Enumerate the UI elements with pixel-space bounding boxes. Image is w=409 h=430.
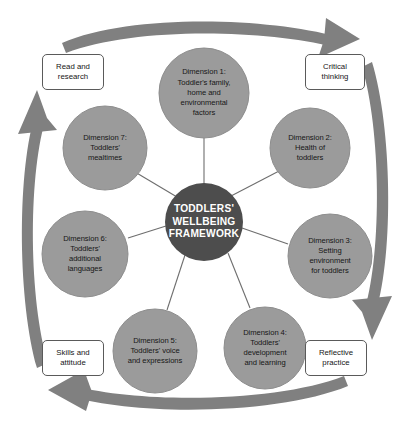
connector-dimension-7 (135, 172, 177, 197)
arrow-right-icon (352, 62, 392, 340)
center-hub-circle (165, 183, 243, 261)
circle-dimension-5 (113, 309, 197, 393)
skills-and-attitude-line-1: Skills and (56, 348, 89, 358)
connector-dimension-3 (242, 228, 288, 244)
circle-dimension-7 (63, 106, 147, 190)
reflective-practice-line-1: Reflective (319, 348, 353, 358)
read-and-research-line-2: research (56, 72, 90, 82)
circle-dimension-3 (288, 214, 372, 298)
circle-dimension-4 (224, 307, 306, 389)
connector-dimension-6 (128, 226, 166, 238)
read-and-research-line-1: Read and (56, 62, 90, 72)
arrow-bottom-icon (48, 370, 348, 411)
skills-and-attitude-line-2: attitude (56, 358, 89, 368)
connector-dimension-4 (228, 253, 250, 308)
connector-dimension-2 (231, 170, 281, 196)
framework-diagram: Dimension 1: Toddler's family, home and … (0, 0, 409, 430)
critical-thinking-line-1: Critical (322, 62, 349, 72)
box-reflective-practice[interactable]: Reflective practice (305, 340, 367, 376)
connector-dimension-5 (167, 255, 185, 310)
box-skills-and-attitude[interactable]: Skills and attitude (42, 340, 104, 376)
reflective-practice-line-2: practice (319, 358, 353, 368)
circle-dimension-6 (42, 211, 128, 297)
box-critical-thinking[interactable]: Critical thinking (305, 54, 365, 90)
critical-thinking-line-2: thinking (322, 72, 349, 82)
circle-dimension-2 (270, 108, 350, 188)
circle-dimension-1 (159, 48, 249, 138)
box-read-and-research[interactable]: Read and research (42, 54, 104, 90)
